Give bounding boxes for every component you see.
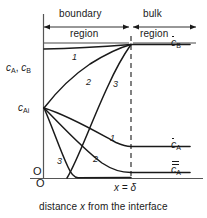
delta-tick-label: x = δ — [114, 183, 136, 193]
curve-label-b-1: 1 — [72, 53, 77, 62]
plateau-label-cb: cB — [171, 37, 181, 48]
y-axis-sub-b: B — [26, 67, 31, 74]
curve-b-3 — [67, 45, 131, 179]
y-axis-sub-a: A — [11, 67, 16, 74]
y-axis-zero-label: O — [33, 166, 42, 177]
origin-label: O — [36, 178, 45, 189]
x-axis-caption: distance x from the interface — [39, 202, 168, 212]
curve-label-b-3: 3 — [113, 80, 118, 89]
boundary-region-subtitle: region — [70, 29, 98, 39]
curve-label-a-1: 1 — [110, 134, 115, 143]
y-axis-label: cA, cB — [6, 63, 31, 73]
bulk-region-subtitle: region — [140, 29, 168, 39]
curve-label-b-2: 2 — [86, 78, 91, 87]
plateau-label-ca-double: cA — [171, 164, 181, 175]
curve-label-a-3: 3 — [57, 157, 62, 166]
interface-concentration-label: cAi — [18, 103, 29, 113]
interface-sub: Ai — [23, 107, 29, 114]
caption-post: from the interface — [85, 201, 168, 212]
ca-bar-sub: A — [176, 144, 181, 151]
boundary-region-title: boundary — [59, 9, 102, 19]
y-axis-comma: , — [16, 62, 19, 73]
ca-dbar-sub: A — [176, 169, 181, 176]
plateau-label-ca: cA — [171, 139, 181, 150]
cb-bar-sub: B — [176, 42, 181, 49]
delta-text: x = δ — [114, 182, 136, 193]
caption-pre: distance — [39, 201, 80, 212]
curve-label-a-2: 2 — [93, 155, 98, 164]
concentration-profile-figure: boundary region bulk region cA, cB cAi c… — [0, 0, 207, 218]
figure-canvas — [0, 0, 207, 218]
bulk-region-title: bulk — [143, 9, 162, 19]
